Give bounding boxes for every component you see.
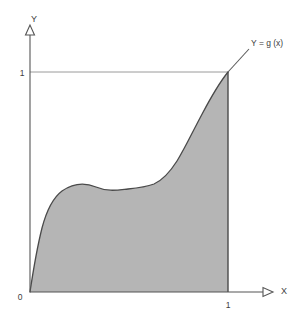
x-tick-label-1: 1 <box>226 300 231 310</box>
curve-label: Y = g (x) <box>251 38 283 48</box>
plot-canvas: Y X 0 1 1 Y = g (x) <box>0 0 308 320</box>
y-axis-label: Y <box>31 14 37 24</box>
plot-figure: Y X 0 1 1 Y = g (x) <box>0 0 308 320</box>
y-tick-label-1: 1 <box>20 68 25 78</box>
y-axis-arrow-icon <box>26 25 35 35</box>
curve-label-leader-line <box>228 49 249 72</box>
x-axis-label: X <box>281 286 287 296</box>
origin-label: 0 <box>18 292 23 302</box>
x-axis-arrow-icon <box>263 288 273 297</box>
region-fill-main <box>30 72 228 292</box>
